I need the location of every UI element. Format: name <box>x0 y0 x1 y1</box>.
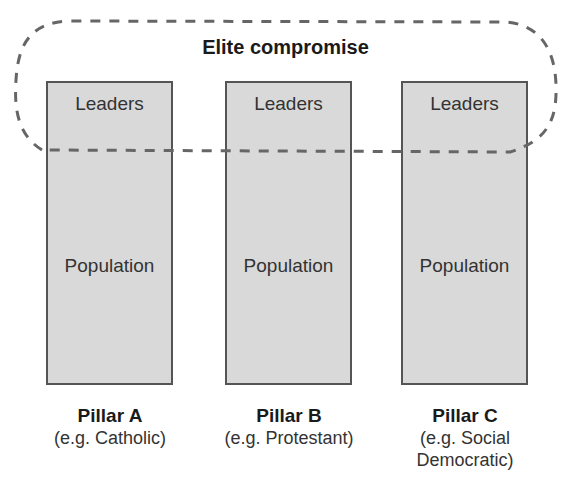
elite-compromise-title: Elite compromise <box>0 36 571 59</box>
pillar-b-caption: Pillar B (e.g. Protestant) <box>199 405 379 449</box>
pillar-a-name: Pillar A <box>20 405 200 427</box>
pillar-a-example: (e.g. Catholic) <box>20 427 200 449</box>
pillar-c-caption: Pillar C (e.g. Social Democratic) <box>375 405 555 471</box>
pillar-a-caption: Pillar A (e.g. Catholic) <box>20 405 200 449</box>
pillar-b-name: Pillar B <box>199 405 379 427</box>
pillar-c-name: Pillar C <box>375 405 555 427</box>
pillar-c-example: (e.g. Social Democratic) <box>410 427 520 471</box>
pillar-b-example: (e.g. Protestant) <box>199 427 379 449</box>
